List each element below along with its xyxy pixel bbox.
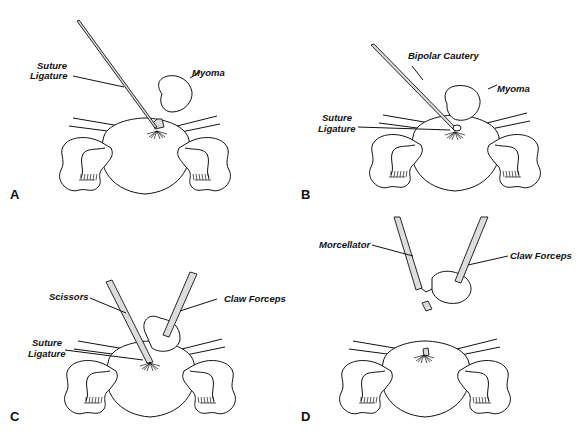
panel-label-a: A <box>10 187 20 202</box>
label-myoma: Myoma <box>192 67 225 78</box>
label-ligature: Ligature <box>30 70 68 81</box>
label-claw-forceps: Claw Forceps <box>224 293 286 304</box>
label-bipolar-cautery: Bipolar Cautery <box>408 50 479 61</box>
laparoscopic-myomectomy-figure: Suture Ligature Myoma A Bipolar Cautery … <box>0 0 583 434</box>
panel-c: Scissors Claw Forceps Suture Ligature C <box>10 272 286 424</box>
morcellator <box>394 217 422 290</box>
label-scissors: Scissors <box>49 291 89 302</box>
label-suture: Suture <box>322 112 353 123</box>
panel-d: Morcellator Claw Forceps D <box>301 217 572 424</box>
panel-label-b: B <box>301 187 310 202</box>
suture-instrument <box>77 20 157 128</box>
panel-label-d: D <box>301 409 310 424</box>
panel-a: Suture Ligature Myoma A <box>10 20 230 202</box>
claw-forceps <box>455 217 488 283</box>
panel-b: Bipolar Cautery Myoma Suture Ligature B <box>301 44 540 202</box>
myoma-specimen <box>432 271 471 303</box>
claw-forceps <box>163 272 197 337</box>
label-ligature: Ligature <box>28 348 66 359</box>
label-claw-forceps: Claw Forceps <box>510 250 572 261</box>
panel-label-c: C <box>10 409 20 424</box>
label-suture: Suture <box>32 337 63 348</box>
myoma <box>445 86 480 121</box>
label-morcellator: Morcellator <box>319 239 372 250</box>
label-ligature: Ligature <box>318 123 356 134</box>
label-myoma: Myoma <box>497 83 530 94</box>
myoma <box>159 76 192 112</box>
